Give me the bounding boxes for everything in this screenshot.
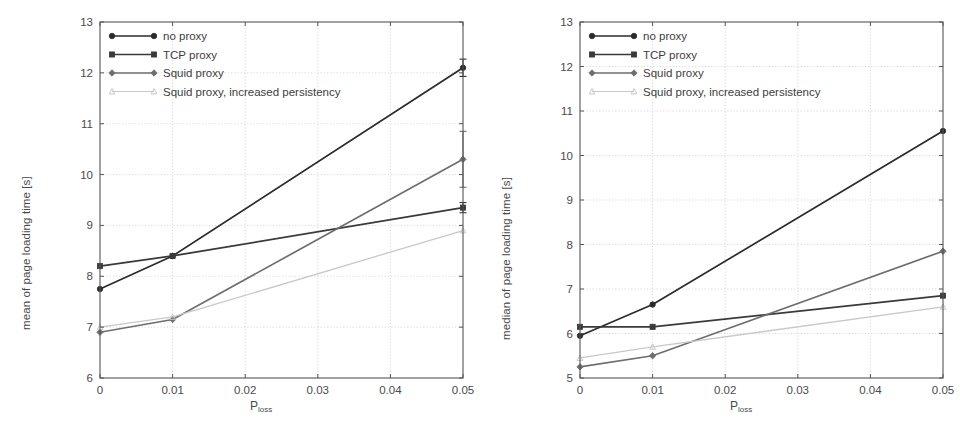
mean-loading-time-plot: 67891011121300.010.020.030.040.05no prox… <box>0 0 480 429</box>
x-axis-label-mean: Ploss <box>250 399 272 414</box>
x-tick-label: 0.01 <box>161 384 183 396</box>
legend-label: no proxy <box>643 30 687 42</box>
y-tick-label: 10 <box>560 150 573 162</box>
y-tick-label: 6 <box>567 328 573 340</box>
x-tick-label: 0.03 <box>307 384 329 396</box>
data-point-marker <box>170 253 175 258</box>
x-tick-label: 0 <box>577 384 583 396</box>
data-point-marker <box>650 324 655 329</box>
series-squid-proxy-increased-persistency <box>97 228 466 330</box>
legend-marker <box>109 52 114 57</box>
legend-label: TCP proxy <box>163 49 217 61</box>
figure-container: 67891011121300.010.020.030.040.05no prox… <box>0 0 960 429</box>
y-tick-label: 8 <box>87 270 93 282</box>
legend-item-tcp-proxy: TCP proxy <box>109 49 217 61</box>
series-tcp-proxy <box>577 293 945 329</box>
y-tick-label: 5 <box>567 372 573 384</box>
data-point-marker <box>649 353 655 359</box>
x-axis-label-main: P <box>730 399 738 413</box>
legend-item-squid-proxy-increased-persistency: Squid proxy, increased persistency <box>109 86 341 98</box>
x-tick-label: 0.01 <box>641 384 663 396</box>
y-tick-label: 12 <box>80 67 93 79</box>
legend-marker <box>589 52 594 57</box>
y-tick-label: 10 <box>80 169 93 181</box>
x-tick-label: 0.02 <box>234 384 256 396</box>
legend-marker <box>151 33 156 38</box>
x-tick-label: 0 <box>97 384 103 396</box>
legend-marker <box>631 33 636 38</box>
legend-item-squid-proxy: Squid proxy <box>109 67 224 79</box>
x-tick-label: 0.05 <box>932 384 954 396</box>
legend-label: Squid proxy <box>163 67 224 79</box>
legend-label: Squid proxy, increased persistency <box>163 86 341 98</box>
legend-marker <box>151 52 156 57</box>
x-axis-label-main: P <box>250 399 258 413</box>
y-tick-label: 9 <box>567 194 573 206</box>
legend-label: Squid proxy <box>643 67 704 79</box>
x-tick-label: 0.04 <box>859 384 882 396</box>
data-point-marker <box>650 302 655 307</box>
y-axis-label-median: median of page loading time [s] <box>500 177 512 340</box>
x-tick-label: 0.04 <box>379 384 402 396</box>
y-tick-label: 11 <box>81 118 93 130</box>
legend-marker <box>631 52 636 57</box>
y-tick-label: 12 <box>560 61 573 73</box>
series-squid-proxy-increased-persistency <box>577 304 946 361</box>
series-no-proxy <box>577 128 945 338</box>
x-tick-label: 0.02 <box>714 384 736 396</box>
legend-marker <box>589 70 595 76</box>
y-tick-label: 13 <box>80 16 93 28</box>
x-tick-label: 0.03 <box>787 384 809 396</box>
legend-label: TCP proxy <box>643 49 697 61</box>
x-axis-label-sub: loss <box>738 405 752 414</box>
legend-label: no proxy <box>163 30 207 42</box>
x-axis-label-sub: loss <box>258 405 272 414</box>
median-loading-time-plot: 567891011121300.010.020.030.040.05no pro… <box>480 0 960 429</box>
legend-item-squid-proxy: Squid proxy <box>589 67 704 79</box>
y-tick-label: 11 <box>561 105 573 117</box>
legend: no proxyTCP proxySquid proxySquid proxy,… <box>589 30 821 98</box>
legend-marker <box>589 33 594 38</box>
series-squid-proxy <box>97 131 467 335</box>
legend-item-tcp-proxy: TCP proxy <box>589 49 697 61</box>
y-axis-label-mean: mean of page loading time [s] <box>20 176 32 330</box>
legend-label: Squid proxy, increased persistency <box>643 86 821 98</box>
y-tick-label: 8 <box>567 239 573 251</box>
legend-item-no-proxy: no proxy <box>109 30 207 42</box>
chart-panel-median: 567891011121300.010.020.030.040.05no pro… <box>480 0 960 429</box>
legend-item-no-proxy: no proxy <box>589 30 687 42</box>
legend-item-squid-proxy-increased-persistency: Squid proxy, increased persistency <box>589 86 821 98</box>
y-tick-label: 9 <box>87 219 93 231</box>
data-series-group <box>97 59 467 335</box>
y-tick-label: 6 <box>87 372 93 384</box>
legend-marker <box>151 70 157 76</box>
x-tick-label: 0.05 <box>452 384 474 396</box>
x-axis-label-median: Ploss <box>730 399 752 414</box>
y-tick-label: 7 <box>87 321 93 333</box>
chart-panel-mean: 67891011121300.010.020.030.040.05no prox… <box>0 0 480 429</box>
legend-marker <box>109 70 115 76</box>
series-squid-proxy <box>577 248 946 370</box>
y-tick-label: 13 <box>560 16 573 28</box>
y-tick-label: 7 <box>567 283 573 295</box>
legend-marker <box>631 70 637 76</box>
legend: no proxyTCP proxySquid proxySquid proxy,… <box>109 30 341 98</box>
legend-marker <box>109 33 114 38</box>
